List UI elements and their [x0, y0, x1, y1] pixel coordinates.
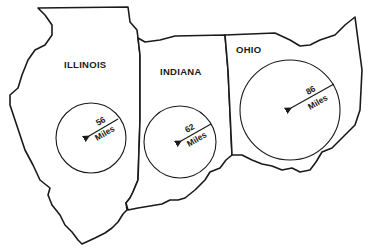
indiana-label: INDIANA [160, 66, 202, 77]
illinois-label: ILLINOIS [64, 59, 107, 70]
illinois-outline [10, 7, 140, 244]
ohio-outline [225, 17, 362, 172]
indiana-outline [126, 35, 232, 210]
ohio-label: OHIO [236, 44, 261, 55]
state-map: 56 Miles 62 Miles 86 Miles ILLINOIS INDI… [0, 0, 369, 248]
